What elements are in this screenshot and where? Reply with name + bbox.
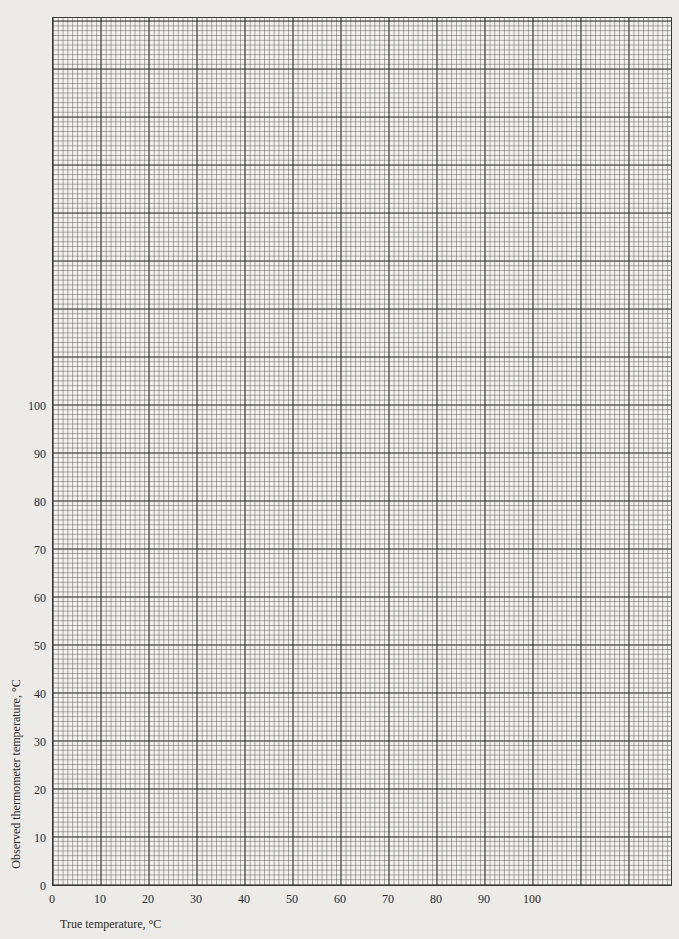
y-tick-label: 80	[12, 496, 46, 508]
y-axis-label: Observed thermometer temperature, °C	[9, 679, 24, 868]
y-tick-label: 60	[12, 592, 46, 604]
x-tick-label: 90	[469, 893, 499, 905]
x-tick-label: 40	[229, 893, 259, 905]
y-tick-label: 0	[12, 880, 46, 892]
x-tick-label: 60	[325, 893, 355, 905]
x-tick-label: 20	[133, 893, 163, 905]
x-tick-label: 50	[277, 893, 307, 905]
x-tick-label: 30	[181, 893, 211, 905]
x-axis-label: True temperature, °C	[60, 917, 161, 932]
y-tick-label: 70	[12, 544, 46, 556]
x-tick-label: 100	[517, 893, 547, 905]
x-tick-label: 0	[37, 893, 67, 905]
y-tick-label: 90	[12, 448, 46, 460]
x-tick-label: 70	[373, 893, 403, 905]
graph-paper-grid	[52, 17, 672, 886]
x-tick-label: 10	[85, 893, 115, 905]
x-tick-label: 80	[421, 893, 451, 905]
y-tick-label: 50	[12, 640, 46, 652]
y-tick-label: 100	[12, 400, 46, 412]
